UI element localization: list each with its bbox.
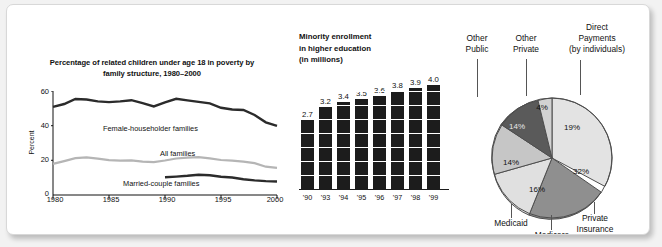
- bar-chart-title-line1: Minority enrollment: [299, 31, 451, 43]
- grid-line: [299, 147, 449, 149]
- bar-x-tick: '93: [321, 193, 330, 202]
- pie-pct-direct-payments: 19%: [564, 123, 580, 132]
- bar-chart-title-line2: in higher education: [299, 43, 451, 55]
- x-tick-2000: 2000: [267, 195, 284, 204]
- bar-x-tick: '90: [303, 193, 312, 202]
- bar-chart-plot-area: 2.7 '90 3.2 '93 3.4 '94 3.5 '95: [299, 75, 449, 203]
- grid-line: [299, 91, 449, 93]
- callout-line2: Private: [499, 44, 553, 55]
- x-tick-1995: 1995: [215, 195, 232, 204]
- bar-x-tick: '98: [411, 193, 420, 202]
- bar-value-label: 4.0: [428, 75, 439, 84]
- callout-line1: Other: [451, 33, 503, 44]
- x-tick-1985: 1985: [103, 195, 120, 204]
- callout-line2: Insurance: [565, 224, 625, 235]
- grid-line: [299, 161, 449, 163]
- callout-line2: Payments: [549, 33, 645, 44]
- grid-line: [299, 133, 449, 135]
- health-care-payments-pie-chart: Other Public Other Private Direct Paymen…: [459, 19, 645, 225]
- bar-x-tick: '97: [393, 193, 402, 202]
- pie-pct-medicare: 16%: [529, 185, 545, 194]
- leader-line-other-public: [477, 59, 478, 97]
- bar-value-label: 3.8: [392, 81, 403, 90]
- pie-pct-medicaid: 14%: [503, 158, 519, 167]
- grid-line: [299, 119, 449, 121]
- line-chart-title-line1: Percentage of related children under age…: [21, 57, 283, 68]
- pie-pct-other-private: 4%: [536, 103, 548, 112]
- leader-line-medicaid: [511, 204, 512, 218]
- bar-chart-title: Minority enrollment in higher education …: [299, 31, 451, 66]
- figure-panel: Percentage of related children under age…: [6, 4, 650, 235]
- page-root: Percentage of related children under age…: [0, 0, 662, 247]
- series-label-all-families: All families: [160, 149, 195, 158]
- callout-line1: Direct: [549, 22, 645, 33]
- bar-value-label: 3.9: [410, 78, 421, 87]
- leader-line-direct-payments: [580, 60, 581, 95]
- pie-pct-other-public: 14%: [509, 122, 525, 131]
- x-tick-1980: 1980: [47, 195, 64, 204]
- grid-line: [299, 105, 449, 107]
- line-chart-title: Percentage of related children under age…: [21, 57, 283, 79]
- pie-callout-direct-payments: Direct Payments (by individuals): [549, 22, 645, 55]
- y-tick-20: 20: [33, 155, 49, 164]
- leader-line-medicare: [551, 215, 552, 230]
- series-label-female-householder: Female-householder families: [103, 124, 198, 133]
- bar-x-tick: '96: [375, 193, 384, 202]
- bar-x-tick: '95: [357, 193, 366, 202]
- pie-callout-other-private: Other Private: [499, 33, 553, 55]
- pie-label-private-insurance: Private Insurance: [565, 213, 625, 235]
- pie-callout-other-public: Other Public: [451, 33, 503, 55]
- line-chart-plot-area: Percent 60 40 20 0: [21, 91, 283, 217]
- leader-line-other-private: [526, 59, 527, 96]
- bar-value-label: 3.4: [338, 92, 349, 101]
- callout-line1: Private: [565, 213, 625, 224]
- poverty-line-chart: Percentage of related children under age…: [21, 57, 283, 222]
- y-tick-40: 40: [33, 121, 49, 130]
- minority-enrollment-bar-chart: Minority enrollment in higher education …: [299, 31, 451, 221]
- callout-line1: Medicaid: [475, 218, 547, 229]
- x-tick-1990: 1990: [159, 195, 176, 204]
- line-chart-title-line2: family structure, 1980–2000: [21, 68, 283, 79]
- grid-line: [299, 175, 449, 177]
- y-tick-60: 60: [33, 87, 49, 96]
- bar-x-tick: '94: [339, 193, 348, 202]
- series-female-householder: [53, 99, 277, 126]
- pie-label-medicaid: Medicaid: [475, 218, 547, 229]
- series-all-families: [53, 157, 277, 168]
- line-chart-x-ticks: 1980 1985 1990 1995 2000: [53, 195, 277, 211]
- callout-line3: (by individuals): [549, 44, 645, 55]
- callout-line1: Other: [499, 33, 553, 44]
- bar-x-tick: '99: [429, 193, 438, 202]
- bar-chart-title-line3: (in millions): [299, 54, 451, 66]
- series-label-married-couple: Married-couple families: [123, 179, 199, 188]
- pie-pct-private-insurance: 32%: [573, 167, 589, 176]
- callout-line2: Public: [451, 44, 503, 55]
- bar-chart-baseline: [299, 189, 449, 190]
